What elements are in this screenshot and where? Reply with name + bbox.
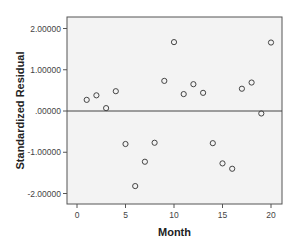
scatter-chart: 2.000001.00000.00000-1.00000-2.00000 051…	[0, 0, 301, 248]
x-tick-label: 15	[218, 210, 228, 220]
y-tick-label: 1.00000	[30, 65, 61, 75]
x-axis-title: Month	[158, 226, 191, 238]
y-tick-label: 2.00000	[30, 24, 61, 34]
y-tick-label: -1.00000	[27, 147, 61, 157]
x-axis: 05101520	[75, 204, 276, 220]
y-tick-label: -2.00000	[27, 189, 61, 199]
y-axis: 2.000001.00000.00000-1.00000-2.00000	[27, 24, 67, 199]
y-axis-title: Standardized Residual	[14, 52, 26, 170]
x-tick-label: 0	[75, 210, 80, 220]
x-tick-label: 20	[266, 210, 276, 220]
y-tick-label: .00000	[35, 106, 61, 116]
x-tick-label: 5	[123, 210, 128, 220]
x-tick-label: 10	[169, 210, 179, 220]
